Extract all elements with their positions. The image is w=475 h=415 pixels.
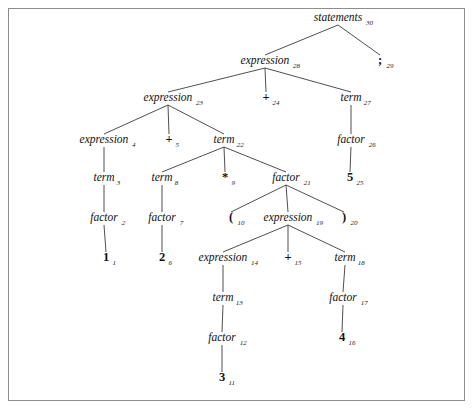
- tree-edge: [224, 147, 225, 172]
- tree-edge: [286, 185, 344, 212]
- tree-node-n22: term22: [213, 133, 244, 149]
- node-index: 23: [196, 99, 204, 107]
- parse-tree-figure: statements30;29expression28expression23+…: [0, 0, 475, 415]
- tree-node-n5: +5: [165, 132, 179, 149]
- tree-node-n29: ;29: [378, 53, 394, 70]
- node-label: 4: [339, 330, 346, 344]
- tree-edge: [231, 185, 286, 212]
- tree-edge: [265, 25, 338, 55]
- tree-edge: [224, 147, 286, 172]
- tree-edge: [286, 185, 288, 212]
- tree-edge: [342, 305, 343, 332]
- tree-node-n13: term13: [212, 291, 243, 307]
- tree-node-n12: factor12: [208, 331, 247, 347]
- node-label: factor: [148, 211, 176, 224]
- node-index: 24: [273, 99, 281, 107]
- tree-edge: [168, 68, 265, 92]
- tree-node-n21: factor21: [272, 171, 311, 187]
- tree-edge: [222, 305, 223, 332]
- tree-node-n23: expression23: [144, 91, 204, 107]
- tree-node-n4: expression4: [80, 133, 136, 149]
- node-label: factor: [329, 291, 357, 304]
- node-label: expression: [144, 91, 193, 104]
- node-index: 18: [358, 259, 366, 267]
- node-index: 28: [293, 62, 301, 70]
- tree-edge: [223, 225, 288, 252]
- node-index: 10: [238, 219, 246, 227]
- tree-edge: [104, 225, 106, 252]
- node-index: 22: [237, 141, 245, 149]
- tree-edge: [338, 25, 380, 55]
- tree-node-n16: 416: [339, 330, 356, 347]
- node-label: +: [165, 132, 172, 146]
- node-index: 13: [236, 299, 244, 307]
- tree-node-n28: expression28: [241, 54, 301, 70]
- node-label: ): [342, 210, 346, 224]
- node-label: 2: [159, 250, 165, 264]
- tree-node-n15: +15: [284, 250, 302, 267]
- node-index: 5: [176, 141, 180, 149]
- tree-edge: [343, 265, 345, 292]
- node-label: +: [284, 250, 291, 264]
- tree-node-n11: 311: [219, 370, 235, 387]
- node-label: 5: [347, 170, 353, 184]
- node-label: statements: [314, 11, 363, 23]
- node-index: 12: [240, 339, 248, 347]
- tree-node-n7: factor7: [148, 211, 184, 227]
- node-index: 3: [116, 179, 121, 187]
- tree-edge: [162, 147, 224, 172]
- tree-node-n2: factor2: [90, 211, 126, 227]
- node-index: 4: [132, 141, 136, 149]
- node-index: 25: [357, 179, 365, 187]
- tree-edge: [265, 68, 351, 92]
- node-label: expression: [80, 133, 129, 146]
- node-label: +: [262, 90, 269, 104]
- node-index: 9: [232, 179, 236, 187]
- tree-edge: [288, 225, 345, 252]
- node-index: 16: [349, 339, 357, 347]
- parse-tree-canvas: statements30;29expression28expression23+…: [0, 0, 475, 415]
- node-label: factor: [90, 211, 118, 224]
- node-index: 27: [364, 99, 372, 107]
- tree-node-n25: 525: [347, 170, 364, 187]
- node-layer: statements30;29expression28expression23+…: [80, 11, 394, 387]
- node-index: 14: [251, 259, 259, 267]
- node-label: term: [212, 291, 233, 303]
- tree-node-n20: )20: [342, 210, 358, 227]
- tree-node-n17: factor17: [329, 291, 368, 307]
- node-label: term: [151, 171, 172, 183]
- node-label: term: [213, 133, 234, 145]
- node-index: 19: [316, 219, 324, 227]
- node-label: ;: [378, 53, 382, 67]
- node-label: term: [340, 91, 361, 103]
- tree-node-n1: 11: [103, 250, 116, 267]
- tree-edge: [104, 105, 168, 134]
- tree-node-n10: (10: [229, 210, 245, 227]
- node-label: factor: [208, 331, 236, 344]
- node-index: 7: [180, 219, 184, 227]
- node-label: term: [93, 171, 114, 183]
- node-index: 26: [369, 141, 377, 149]
- tree-node-n9: *9: [222, 170, 236, 187]
- tree-node-n18: term18: [334, 251, 365, 267]
- node-index: 2: [122, 219, 126, 227]
- node-index: 15: [295, 259, 303, 267]
- tree-edge: [168, 105, 224, 134]
- node-label: term: [334, 251, 355, 263]
- node-label: expression: [264, 211, 313, 224]
- node-index: 20: [351, 219, 359, 227]
- tree-node-n3: term3: [93, 171, 120, 187]
- tree-node-n27: term27: [340, 91, 371, 107]
- node-index: 8: [175, 179, 179, 187]
- node-label: *: [222, 170, 228, 184]
- tree-edge: [168, 105, 169, 134]
- edge-layer: [104, 25, 380, 372]
- tree-node-n14: expression14: [199, 251, 259, 267]
- tree-node-n26: factor26: [337, 133, 376, 149]
- node-index: 11: [229, 379, 235, 387]
- node-label: 3: [219, 370, 225, 384]
- node-label: factor: [272, 171, 300, 184]
- node-label: expression: [199, 251, 248, 264]
- node-index: 6: [169, 259, 173, 267]
- tree-node-n6: 26: [159, 250, 173, 267]
